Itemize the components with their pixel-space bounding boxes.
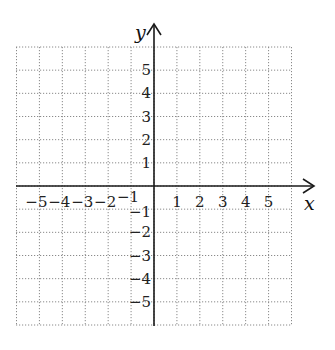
x-tick-label: 4 bbox=[241, 193, 251, 211]
y-tick-label: 2 bbox=[141, 131, 151, 149]
x-tick-label: 5 bbox=[264, 193, 274, 211]
y-tick-label: 4 bbox=[141, 84, 151, 102]
y-tick-label: 1 bbox=[141, 154, 151, 172]
y-tick-label: −3 bbox=[129, 247, 151, 265]
coordinate-grid-svg: −5−4−3−2−112345 54321−1−2−3−4−5 x y bbox=[0, 0, 335, 350]
axes bbox=[16, 24, 314, 326]
y-axis-label: y bbox=[134, 21, 146, 43]
x-tick-label: −2 bbox=[94, 193, 116, 211]
y-tick-label: −4 bbox=[129, 270, 151, 288]
y-tick-label: 3 bbox=[141, 108, 151, 126]
x-tick-label: −3 bbox=[71, 193, 93, 211]
y-tick-label: 5 bbox=[141, 61, 151, 79]
x-axis-label: x bbox=[304, 192, 315, 214]
y-tick-label: −2 bbox=[129, 223, 151, 241]
y-tick-label: −1 bbox=[129, 203, 151, 221]
x-tick-label: −5 bbox=[25, 193, 47, 211]
x-tick-label: 1 bbox=[172, 193, 182, 211]
x-tick-label: −4 bbox=[48, 193, 70, 211]
x-tick-label: 3 bbox=[218, 193, 228, 211]
y-tick-label: −5 bbox=[129, 293, 151, 311]
coordinate-plane: −5−4−3−2−112345 54321−1−2−3−4−5 x y bbox=[0, 0, 335, 350]
x-tick-label: 2 bbox=[195, 193, 205, 211]
